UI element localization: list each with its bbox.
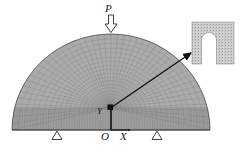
axis-x-label: X bbox=[120, 131, 127, 142]
support-right-icon bbox=[152, 131, 162, 140]
inset-detail bbox=[192, 22, 234, 64]
origin-label: O bbox=[101, 131, 109, 142]
figure-canvas: P Y O X bbox=[0, 0, 245, 153]
load-arrow-icon bbox=[105, 15, 117, 33]
axis-y-label: Y bbox=[97, 107, 102, 116]
load-label: P bbox=[105, 3, 112, 14]
support-left-icon bbox=[52, 131, 62, 140]
